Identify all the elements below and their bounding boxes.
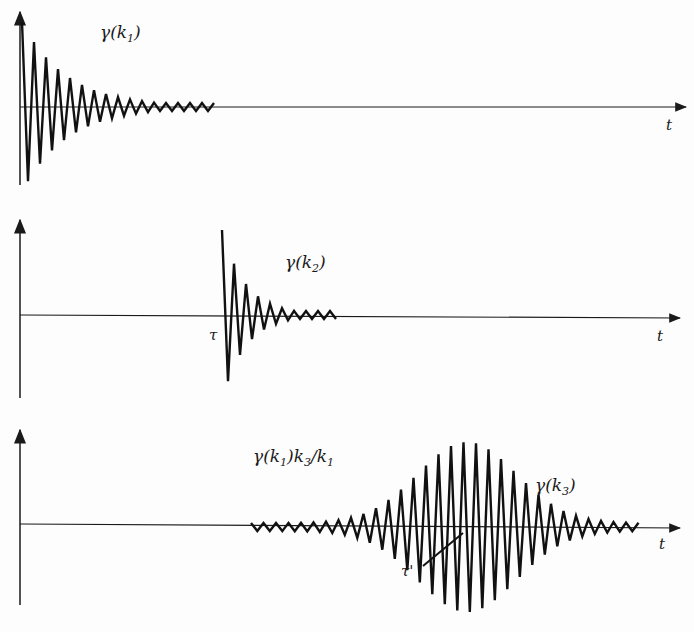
panel-2-t-label: t — [657, 327, 663, 345]
panel-3-right-label: γ(k3) — [535, 475, 576, 498]
panel-3-t-label: t — [659, 535, 665, 553]
panel-1-waveform — [22, 22, 214, 181]
panel-3-t-axis — [20, 524, 680, 528]
waveform-diagram — [0, 0, 694, 632]
panel-2-label: γ(k2) — [285, 252, 326, 275]
panel-1-label: γ(k1) — [100, 22, 141, 45]
tau-label: τ — [209, 326, 217, 344]
panel-3-left-label: γ(k1)k3/k1 — [253, 446, 334, 469]
panel-2-t-axis — [20, 315, 680, 318]
tau-prime-label: τ' — [401, 562, 413, 580]
panel-1-t-label: t — [666, 116, 672, 134]
